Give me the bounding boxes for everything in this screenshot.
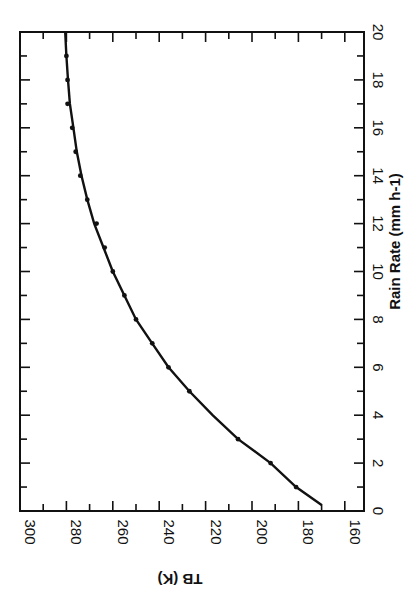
rain-tick-label: 14 — [370, 167, 387, 184]
rain-tick-label: 18 — [370, 72, 387, 89]
data-point — [73, 149, 78, 154]
data-point — [294, 485, 299, 490]
tb-tick-label: 260 — [115, 519, 132, 544]
data-point — [78, 173, 83, 178]
y-axis-title: TB (K) — [158, 571, 203, 588]
rotated-line-chart: 3002802602402202001801600246810121416182… — [0, 0, 418, 596]
plot-border — [20, 32, 364, 511]
data-point — [65, 78, 70, 83]
data-point — [70, 125, 75, 130]
data-points — [64, 54, 298, 490]
data-point — [187, 389, 192, 394]
data-point — [122, 293, 127, 298]
rain-tick-label: 12 — [370, 215, 387, 232]
rain-tick-label: 2 — [370, 459, 387, 467]
data-point — [268, 461, 273, 466]
data-point — [134, 317, 139, 322]
model-curve — [65, 32, 321, 505]
rain-tick-label: 16 — [370, 119, 387, 136]
data-point — [64, 54, 69, 59]
tb-tick-label: 160 — [347, 519, 364, 544]
tb-tick-label: 300 — [22, 519, 39, 544]
data-point — [166, 365, 171, 370]
axis-ticks — [20, 32, 364, 511]
axis-tick-labels: 3002802602402202001801600246810121416182… — [22, 24, 387, 545]
x-axis-title: Rain Rate (mm h-1) — [386, 173, 403, 310]
tb-tick-label: 280 — [68, 519, 85, 544]
tb-tick-label: 220 — [208, 519, 225, 544]
tb-tick-label: 200 — [254, 519, 271, 544]
data-point — [110, 269, 115, 274]
rain-tick-label: 0 — [370, 507, 387, 515]
data-point — [236, 437, 241, 442]
rain-tick-label: 20 — [370, 24, 387, 41]
data-point — [94, 221, 99, 226]
data-point — [150, 341, 155, 346]
rain-tick-label: 10 — [370, 263, 387, 280]
data-point — [102, 245, 107, 250]
plot-frame — [20, 32, 364, 511]
rain-tick-label: 4 — [370, 411, 387, 419]
tb-tick-label: 180 — [300, 519, 317, 544]
data-point — [65, 101, 70, 106]
data-point — [85, 197, 90, 202]
tb-tick-label: 240 — [161, 519, 178, 544]
rain-tick-label: 6 — [370, 363, 387, 371]
rain-tick-label: 8 — [370, 315, 387, 323]
